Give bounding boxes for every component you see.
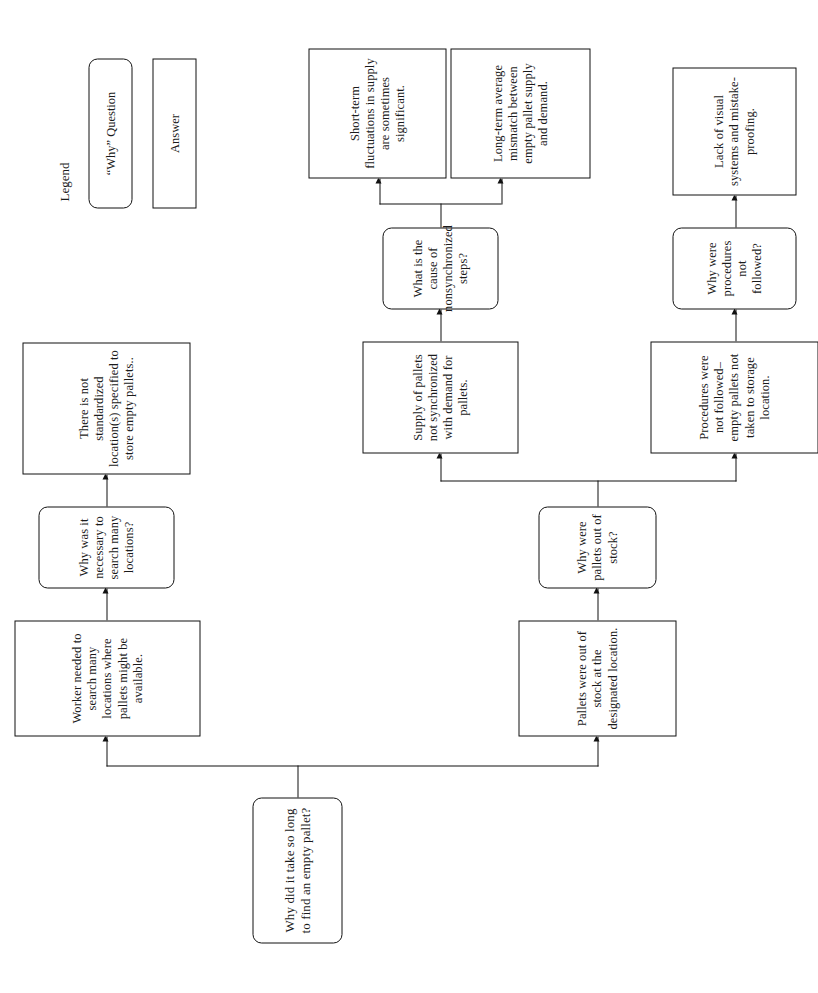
edge-trunk-main: [106, 765, 598, 766]
edge-q4-out: [440, 203, 441, 227]
node-a4-answer[interactable]: Supply of pallets not synchronized with …: [362, 341, 518, 453]
edge-trunk-q4: [379, 203, 501, 204]
node-a6-answer[interactable]: Long-term average mismatch between empty…: [450, 48, 590, 178]
legend-why-question-box: “Why” Question: [88, 58, 132, 208]
edge-root-out: [297, 765, 298, 797]
node-a7-answer[interactable]: Procedures were not followed–empty palle…: [650, 341, 818, 453]
node-q5-why-question[interactable]: Why were procedures not followed?: [672, 227, 796, 309]
node-a5-answer[interactable]: Short-term fluctuations in supply are so…: [308, 48, 446, 178]
node-q2-why-question[interactable]: Why was it necessary to search many loca…: [38, 506, 174, 588]
edge-q3-out: [597, 480, 598, 506]
legend-answer-box: Answer: [152, 58, 196, 208]
node-a2-answer[interactable]: There is not standardized location(s) sp…: [22, 342, 190, 474]
node-a1-answer[interactable]: Worker needed to search many locations w…: [14, 620, 200, 736]
node-a3-answer[interactable]: Pallets were out of stock at the designa…: [518, 620, 676, 736]
node-q4-why-question[interactable]: What is the cause of nonsynchronized ste…: [382, 227, 498, 309]
node-a8-answer[interactable]: Lack of visual systems and mistake-proof…: [672, 67, 796, 195]
node-q3-why-question[interactable]: Why were pallets out of stock?: [538, 506, 656, 588]
edge-trunk-q3: [440, 480, 736, 481]
node-root-why-question[interactable]: Why did it take so long to find an empty…: [252, 797, 342, 943]
legend-title: Legend: [56, 162, 72, 201]
